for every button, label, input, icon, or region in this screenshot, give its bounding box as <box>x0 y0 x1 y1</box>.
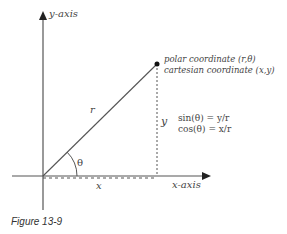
r-label: r <box>90 104 95 115</box>
polar-coordinate-diagram <box>0 0 287 234</box>
x-label: x <box>96 180 102 191</box>
x-axis-arrow <box>202 172 211 180</box>
polar-coordinate-label: polar coordinate (r,θ) <box>164 54 256 64</box>
sin-formula: sin(θ) = y/r <box>178 113 229 123</box>
theta-arc <box>67 152 77 176</box>
point-marker <box>155 62 160 67</box>
y-label: y <box>161 115 167 128</box>
radius-line <box>43 64 157 176</box>
y-axis-arrow <box>39 11 47 20</box>
cartesian-coordinate-label: cartesian coordinate (x,y) <box>164 65 275 75</box>
x-axis-label: x-axis <box>172 179 201 190</box>
theta-label: θ <box>77 157 83 168</box>
y-axis-label: y-axis <box>49 8 78 19</box>
figure-caption: Figure 13-9 <box>11 216 62 227</box>
cos-formula: cos(θ) = x/r <box>178 124 231 134</box>
